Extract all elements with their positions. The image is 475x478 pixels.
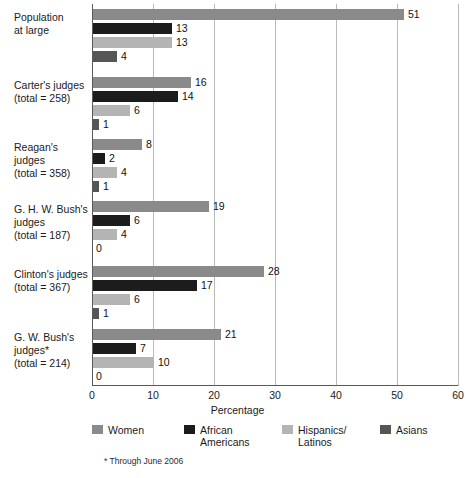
bar-value-label: 4 bbox=[117, 51, 127, 62]
bar bbox=[93, 153, 105, 164]
legend-item: Hispanics/ Latinos bbox=[282, 424, 346, 448]
x-tick-30: 30 bbox=[269, 389, 281, 401]
gridline-30 bbox=[275, 4, 276, 386]
legend-item: Women bbox=[92, 424, 144, 436]
bar-row: 17 bbox=[93, 280, 213, 291]
x-tick-0: 0 bbox=[89, 389, 95, 401]
bar bbox=[93, 139, 142, 150]
bar-value-label: 13 bbox=[172, 37, 188, 48]
category-label-line: judges* bbox=[14, 344, 90, 357]
bar-row: 6 bbox=[93, 215, 140, 226]
bar bbox=[93, 91, 178, 102]
x-tick-60: 60 bbox=[452, 389, 464, 401]
bar bbox=[93, 266, 264, 277]
category-label: Reagan's judges(total = 358) bbox=[14, 141, 90, 180]
bar-value-label: 10 bbox=[154, 357, 170, 368]
bar-row: 4 bbox=[93, 229, 127, 240]
bar-row: 13 bbox=[93, 23, 188, 34]
bar bbox=[93, 329, 221, 340]
bar-value-label: 6 bbox=[130, 215, 140, 226]
bar-value-label: 51 bbox=[404, 9, 420, 20]
legend-swatch bbox=[380, 425, 391, 434]
bar-value-label: 6 bbox=[130, 294, 140, 305]
bar-value-label: 0 bbox=[93, 371, 102, 382]
bar bbox=[93, 51, 117, 62]
bar-value-label: 16 bbox=[191, 77, 207, 88]
bar bbox=[93, 229, 117, 240]
category-label-line: (total = 187) bbox=[14, 229, 90, 242]
bar-value-label: 13 bbox=[172, 23, 188, 34]
bar-row: 28 bbox=[93, 266, 280, 277]
chart-figure: 5113134161461824119640281761217100 Popul… bbox=[0, 0, 475, 478]
legend-swatch bbox=[282, 425, 293, 434]
bar-row: 1 bbox=[93, 119, 109, 130]
category-label: Carter's judges(total = 258) bbox=[14, 79, 90, 105]
category-label: G. W. Bush'sjudges*(total = 214) bbox=[14, 331, 90, 370]
category-label-line: (total = 258) bbox=[14, 92, 90, 105]
legend-item: Asians bbox=[380, 424, 428, 436]
bar-row: 0 bbox=[93, 371, 102, 382]
bar-value-label: 19 bbox=[209, 201, 225, 212]
bar-row: 6 bbox=[93, 294, 140, 305]
category-label-line: Reagan's judges bbox=[14, 141, 90, 167]
category-label: Populationat large bbox=[14, 11, 90, 37]
bar-row: 14 bbox=[93, 91, 194, 102]
x-tick-20: 20 bbox=[208, 389, 220, 401]
bar-row: 13 bbox=[93, 37, 188, 48]
bar bbox=[93, 77, 191, 88]
gridline-40 bbox=[336, 4, 337, 386]
bar-row: 16 bbox=[93, 77, 207, 88]
bar-value-label: 1 bbox=[99, 119, 109, 130]
x-tick-10: 10 bbox=[147, 389, 159, 401]
legend-label: African Americans bbox=[200, 424, 250, 448]
bar bbox=[93, 201, 209, 212]
bar bbox=[93, 294, 130, 305]
category-label-line: Population bbox=[14, 11, 90, 24]
legend-swatch bbox=[184, 425, 195, 434]
bar-row: 1 bbox=[93, 181, 109, 192]
x-axis-line bbox=[92, 385, 458, 386]
bar-value-label: 4 bbox=[117, 167, 127, 178]
bar-value-label: 4 bbox=[117, 229, 127, 240]
category-label-line: (total = 367) bbox=[14, 281, 90, 294]
bar bbox=[93, 167, 117, 178]
bar-value-label: 17 bbox=[197, 280, 213, 291]
category-label-line: Carter's judges bbox=[14, 79, 90, 92]
bar-row: 7 bbox=[93, 343, 146, 354]
category-label-line: at large bbox=[14, 24, 90, 37]
bar-row: 8 bbox=[93, 139, 152, 150]
bar-value-label: 8 bbox=[142, 139, 152, 150]
bar bbox=[93, 343, 136, 354]
bar-value-label: 2 bbox=[105, 153, 115, 164]
bar-row: 10 bbox=[93, 357, 170, 368]
category-label-line: G. H. W. Bush's bbox=[14, 203, 90, 216]
x-tick-40: 40 bbox=[330, 389, 342, 401]
category-label-line: (total = 358) bbox=[14, 167, 90, 180]
gridline-60 bbox=[458, 4, 459, 386]
category-label-line: judges bbox=[14, 216, 90, 229]
legend-label: Women bbox=[108, 424, 144, 436]
bar-row: 21 bbox=[93, 329, 237, 340]
bar bbox=[93, 357, 154, 368]
bar-value-label: 1 bbox=[99, 308, 109, 319]
legend-item: African Americans bbox=[184, 424, 250, 448]
bar bbox=[93, 280, 197, 291]
bar-value-label: 0 bbox=[93, 243, 102, 254]
bar-value-label: 7 bbox=[136, 343, 146, 354]
category-label: G. H. W. Bush'sjudges(total = 187) bbox=[14, 203, 90, 242]
bar bbox=[93, 23, 172, 34]
bar-row: 4 bbox=[93, 167, 127, 178]
bar-value-label: 6 bbox=[130, 105, 140, 116]
bar bbox=[93, 9, 404, 20]
category-label-line: Clinton's judges bbox=[14, 268, 90, 281]
bar-value-label: 1 bbox=[99, 181, 109, 192]
plot-area: 5113134161461824119640281761217100 bbox=[92, 4, 458, 386]
bar-row: 1 bbox=[93, 308, 109, 319]
gridline-50 bbox=[397, 4, 398, 386]
footnote: * Through June 2006 bbox=[104, 456, 183, 467]
bar-row: 6 bbox=[93, 105, 140, 116]
legend-label: Asians bbox=[396, 424, 428, 436]
bar-row: 2 bbox=[93, 153, 115, 164]
bar-row: 4 bbox=[93, 51, 127, 62]
chart-legend: WomenAfrican AmericansHispanics/ Latinos… bbox=[92, 424, 452, 458]
